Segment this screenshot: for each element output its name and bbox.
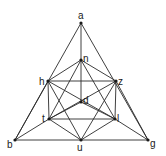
vertex-a <box>79 21 82 24</box>
edge-g-z <box>116 81 148 140</box>
vertex-label-a: a <box>78 10 84 21</box>
vertex-label-t: t <box>42 113 45 124</box>
vertex-label-u: u <box>77 142 83 153</box>
vertex-label-n: n <box>83 53 89 64</box>
vertex-t <box>47 117 50 120</box>
vertex-label-z: z <box>118 76 123 87</box>
vertex-label-g: g <box>150 138 156 149</box>
edge-t-u <box>49 119 81 140</box>
vertex-label-b: b <box>7 139 13 150</box>
edge-h-t <box>48 81 49 119</box>
edge-z-l <box>115 81 116 119</box>
vertex-label-h: h <box>39 76 45 87</box>
vertex-h <box>46 79 49 82</box>
edge-g-l <box>115 119 148 140</box>
graph-diagram: anhzdtlbug <box>0 0 166 156</box>
vertex-b <box>13 138 16 141</box>
edges <box>15 23 148 140</box>
edge-b-h <box>15 81 48 140</box>
vertices <box>13 21 149 141</box>
vertex-label-d: d <box>83 95 89 106</box>
vertex-label-l: l <box>117 113 119 124</box>
edge-n-h <box>48 60 81 81</box>
edge-l-u <box>81 119 115 140</box>
